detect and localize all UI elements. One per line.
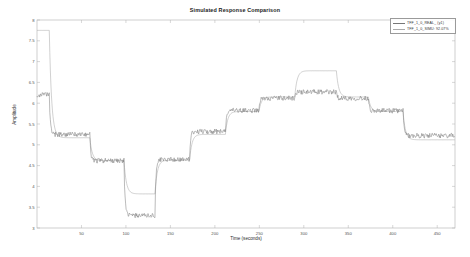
x-tick-label: 50 xyxy=(79,231,84,236)
x-tick-label: 200 xyxy=(211,231,219,236)
y-tick-label: 3.5 xyxy=(29,205,35,210)
x-tick-label: 450 xyxy=(434,231,442,236)
y-axis-label: Amplitude xyxy=(12,85,17,145)
y-tick-label: 5.5 xyxy=(29,122,35,127)
series-line-simu xyxy=(37,30,455,193)
x-tick-label: 400 xyxy=(389,231,397,236)
legend[interactable]: TFF_1_0_REAL_ (y1) TFF_1_0_SIMU: 92.07% xyxy=(390,18,456,34)
y-tick-label: 7 xyxy=(32,59,35,64)
legend-item-simu[interactable]: TFF_1_0_SIMU: 92.07% xyxy=(393,26,453,32)
x-tick-label: 100 xyxy=(122,231,130,236)
x-axis-label: Time (seconds) xyxy=(37,236,455,241)
x-tick-label: 150 xyxy=(167,231,175,236)
y-tick-label: 8 xyxy=(32,18,35,23)
y-tick-label: 6.5 xyxy=(29,80,35,85)
legend-swatch-simu xyxy=(393,29,405,30)
y-tick-label: 4.5 xyxy=(29,163,35,168)
x-tick-label: 300 xyxy=(300,231,308,236)
y-tick-label: 6 xyxy=(32,101,35,106)
legend-label-simu: TFF_1_0_SIMU: 92.07% xyxy=(407,26,449,32)
series-group xyxy=(37,30,455,217)
y-tick-label: 3 xyxy=(32,226,35,231)
x-tick-label: 350 xyxy=(345,231,353,236)
series-line-real xyxy=(37,90,455,218)
figure-canvas: Simulated Response Comparison 33.544.555… xyxy=(0,0,470,257)
y-tick-label: 5 xyxy=(32,142,35,147)
y-tick-label: 7.5 xyxy=(29,38,35,43)
axes-group: 33.544.555.566.577.585010015020025030035… xyxy=(29,18,455,236)
legend-swatch-real xyxy=(393,23,405,24)
plot-svg: 33.544.555.566.577.585010015020025030035… xyxy=(0,0,470,257)
y-tick-label: 4 xyxy=(32,184,35,189)
x-tick-label: 250 xyxy=(256,231,264,236)
plot-frame xyxy=(37,20,455,228)
